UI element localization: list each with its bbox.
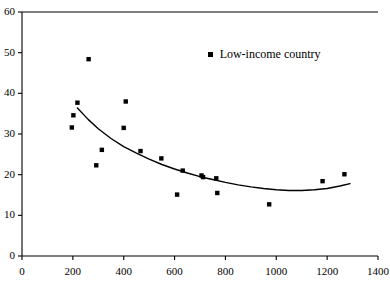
y-tick-0: 0 bbox=[0, 249, 15, 261]
data-point bbox=[100, 148, 104, 152]
x-tick-400: 400 bbox=[99, 265, 149, 277]
data-points bbox=[70, 57, 347, 207]
x-tick-1400: 1400 bbox=[353, 265, 390, 277]
data-point bbox=[320, 179, 324, 183]
data-point bbox=[159, 156, 163, 160]
data-point bbox=[201, 175, 205, 179]
data-point bbox=[138, 149, 142, 153]
x-tick-800: 800 bbox=[200, 265, 250, 277]
data-point bbox=[214, 176, 218, 180]
legend-square-marker bbox=[208, 52, 213, 57]
data-point bbox=[122, 126, 126, 130]
data-point bbox=[342, 172, 346, 176]
x-tick-1000: 1000 bbox=[251, 265, 301, 277]
data-point bbox=[267, 202, 271, 206]
trend-line bbox=[77, 108, 350, 191]
legend-label: Low-income country bbox=[220, 47, 321, 62]
data-point bbox=[124, 99, 128, 103]
y-tick-20: 20 bbox=[0, 168, 15, 180]
data-point bbox=[94, 163, 98, 167]
y-tick-60: 60 bbox=[0, 5, 15, 17]
x-tick-200: 200 bbox=[48, 265, 98, 277]
data-point bbox=[175, 192, 179, 196]
data-point bbox=[70, 125, 74, 129]
x-tick-0: 0 bbox=[0, 265, 47, 277]
y-tick-40: 40 bbox=[0, 86, 15, 98]
x-tick-1200: 1200 bbox=[302, 265, 352, 277]
chart-legend: Low-income country bbox=[208, 47, 321, 62]
x-tick-600: 600 bbox=[150, 265, 200, 277]
data-point bbox=[86, 57, 90, 61]
y-tick-10: 10 bbox=[0, 208, 15, 220]
y-tick-30: 30 bbox=[0, 127, 15, 139]
axis-ticks bbox=[18, 12, 378, 260]
y-tick-50: 50 bbox=[0, 46, 15, 58]
data-point bbox=[215, 191, 219, 195]
plot-canvas bbox=[0, 0, 390, 298]
data-point bbox=[75, 100, 79, 104]
data-point bbox=[181, 168, 185, 172]
chart-axes bbox=[22, 12, 378, 256]
data-point bbox=[71, 113, 75, 117]
scatter-chart: 6050403020100 0200400600800100012001400 … bbox=[0, 0, 390, 298]
